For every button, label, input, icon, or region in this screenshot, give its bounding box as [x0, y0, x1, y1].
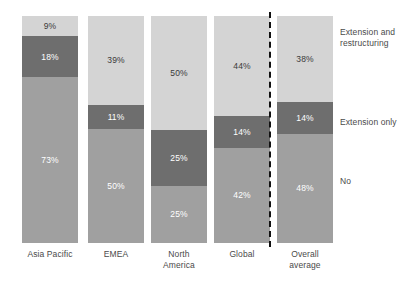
overall-average-divider — [269, 12, 271, 247]
bar-segment-value-label: 73% — [41, 156, 58, 165]
bar-segment: 9% — [22, 16, 78, 36]
legend-item-label: Extension only — [340, 117, 408, 128]
chart-plot-area: 9%18%73%Asia Pacific39%11%50%EMEA50%25%2… — [0, 0, 408, 292]
bar-segment: 25% — [151, 186, 207, 243]
bar-segment-value-label: 50% — [170, 69, 187, 78]
bar-segment: 42% — [214, 148, 270, 243]
bar-segment: 48% — [277, 134, 333, 243]
bar-segment-value-label: 14% — [296, 114, 313, 123]
bar-segment: 44% — [214, 16, 270, 116]
bar-column: 50%25%25% — [151, 16, 207, 243]
x-axis-category-label: Overall average — [265, 249, 345, 270]
bar-segment: 73% — [22, 77, 78, 243]
bar-segment-value-label: 50% — [107, 182, 124, 191]
bar-segment: 14% — [214, 116, 270, 148]
bar-column: 9%18%73% — [22, 16, 78, 243]
bar-segment: 11% — [88, 105, 144, 130]
bar-column: 38%14%48% — [277, 16, 333, 243]
bar-segment-value-label: 39% — [107, 56, 124, 65]
bar-segment: 38% — [277, 16, 333, 102]
bar-segment-value-label: 18% — [41, 53, 58, 62]
bar-segment-value-label: 11% — [108, 113, 125, 122]
bar-column: 39%11%50% — [88, 16, 144, 243]
bar-segment-value-label: 14% — [233, 128, 250, 137]
bar-segment: 39% — [88, 16, 144, 105]
bar-segment-value-label: 25% — [170, 154, 187, 163]
bar-segment-value-label: 25% — [170, 210, 187, 219]
legend-item-label: No — [340, 176, 408, 187]
bar-segment-value-label: 42% — [233, 191, 250, 200]
stacked-bar-chart: 9%18%73%Asia Pacific39%11%50%EMEA50%25%2… — [0, 0, 408, 292]
bar-segment: 18% — [22, 36, 78, 77]
bar-segment-value-label: 38% — [296, 55, 313, 64]
bar-segment-value-label: 9% — [44, 22, 57, 31]
bar-segment-value-label: 48% — [296, 184, 313, 193]
bar-segment: 25% — [151, 130, 207, 187]
bar-segment: 50% — [151, 16, 207, 130]
legend-item-label: Extension and restructuring — [340, 27, 408, 48]
bar-segment: 50% — [88, 129, 144, 243]
bar-segment: 14% — [277, 102, 333, 134]
bar-column: 44%14%42% — [214, 16, 270, 243]
bar-segment-value-label: 44% — [233, 62, 250, 71]
